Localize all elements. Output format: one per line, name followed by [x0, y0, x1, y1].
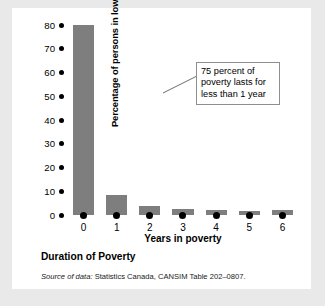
y-tick-label: 30: [44, 138, 55, 149]
y-tick-dot: [59, 141, 64, 146]
x-tick-dot: [113, 212, 120, 219]
x-tick-dot: [146, 212, 153, 219]
y-tick: 20: [44, 162, 67, 174]
y-tick-dot: [59, 118, 64, 123]
y-tick-dot: [59, 70, 64, 75]
bar-slot: 0: [67, 25, 100, 215]
y-tick-dot: [59, 189, 64, 194]
x-tick-label: 1: [100, 222, 133, 233]
y-tick-label: 80: [44, 20, 55, 31]
callout-box: 75 percent of poverty lasts for less tha…: [196, 62, 280, 105]
y-tick-dot: [59, 23, 64, 28]
bar-slot: 4: [200, 25, 233, 215]
bar-slot: 2: [133, 25, 166, 215]
x-tick-dot: [279, 212, 286, 219]
callout-line-1: 75 percent of: [201, 66, 275, 77]
callout-leader-line: [163, 71, 199, 93]
y-tick: 70: [44, 43, 67, 55]
source-prefix: Source of data:: [41, 272, 93, 281]
x-tick-dot: [213, 212, 220, 219]
figure-caption: Duration of Poverty: [41, 251, 136, 262]
y-tick: 50: [44, 90, 67, 102]
x-tick-label: 5: [233, 222, 266, 233]
bar-slot: 1: [100, 25, 133, 215]
y-tick: 80: [44, 19, 67, 31]
y-tick: 10: [44, 185, 67, 197]
bar[interactable]: [73, 25, 94, 215]
y-tick-label: 0: [50, 210, 55, 221]
chart-panel: Percentage of persons in low income 0102…: [12, 8, 311, 289]
figure-container: Percentage of persons in low income 0102…: [0, 0, 325, 306]
x-tick-label: 4: [200, 222, 233, 233]
y-tick: 0: [50, 209, 67, 221]
y-tick-label: 10: [44, 186, 55, 197]
callout-line-3: less than 1 year: [201, 89, 275, 100]
y-tick-label: 40: [44, 115, 55, 126]
y-tick: 60: [44, 67, 67, 79]
y-tick-label: 50: [44, 91, 55, 102]
y-tick-label: 60: [44, 67, 55, 78]
y-tick-dot: [59, 165, 64, 170]
bar-series: 0123456: [67, 25, 307, 215]
bar-slot: 5: [233, 25, 266, 215]
figure-source: Source of data: Statistics Canada, CANSI…: [41, 272, 246, 281]
plot-area: Percentage of persons in low income 0102…: [67, 25, 307, 215]
bar-slot: 3: [166, 25, 199, 215]
y-tick-dot: [59, 94, 64, 99]
x-tick-dot: [246, 212, 253, 219]
x-tick-label: 6: [266, 222, 299, 233]
y-tick: 40: [44, 114, 67, 126]
y-tick-dot: [59, 213, 64, 218]
y-tick-label: 70: [44, 43, 55, 54]
x-tick-label: 0: [67, 222, 100, 233]
y-tick-dot: [59, 46, 64, 51]
source-text: Statistics Canada, CANSIM Table 202–0807…: [93, 272, 246, 281]
x-tick-label: 3: [166, 222, 199, 233]
bar-slot: 6: [266, 25, 299, 215]
x-tick-label: 2: [133, 222, 166, 233]
y-tick-label: 20: [44, 162, 55, 173]
y-tick: 30: [44, 138, 67, 150]
x-tick-dot: [80, 212, 87, 219]
callout-line-2: poverty lasts for: [201, 77, 275, 88]
x-axis-title: Years in poverty: [67, 233, 299, 244]
